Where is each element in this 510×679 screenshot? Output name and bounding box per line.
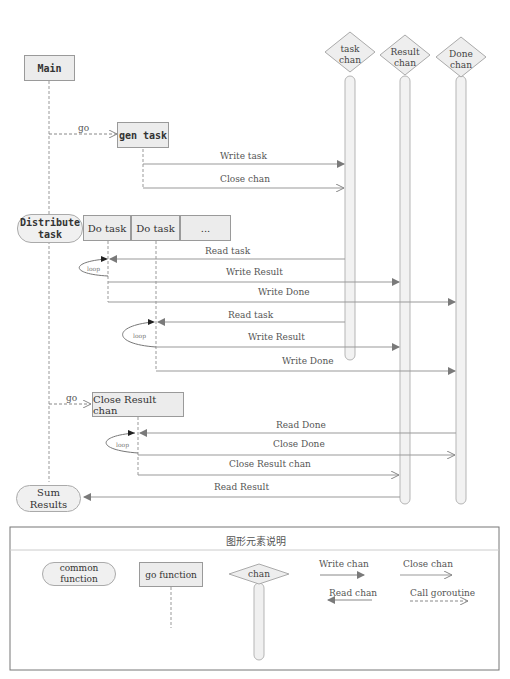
- close-chan-label: Close chan: [220, 175, 270, 184]
- sum-results-pill: Sum Results: [16, 485, 81, 512]
- do-task-more-box: ...: [180, 215, 231, 241]
- close-result-chan-label: Close Result chan: [229, 460, 311, 469]
- close-result-chan-box: Close Result chan: [92, 392, 184, 417]
- go-label-2: go: [66, 394, 77, 403]
- legend-call-goroutine-label: Call goroutine: [410, 589, 475, 598]
- legend-close-chan-label: Close chan: [403, 560, 453, 569]
- result-chan-lifeline: [380, 35, 430, 504]
- done-chan-lifeline: [436, 37, 486, 504]
- task-chan-lifeline: [325, 32, 375, 360]
- legend-common-function: common function: [42, 562, 116, 586]
- do-task-1-box: Do task: [83, 215, 131, 241]
- done-chan-label: Donechan: [441, 49, 481, 72]
- loop-1-label: loop: [87, 265, 100, 272]
- read-done-label: Read Done: [276, 421, 326, 430]
- write-done-1-label: Write Done: [258, 288, 310, 297]
- main-box: Main: [24, 55, 75, 81]
- go-label-1: go: [78, 124, 89, 133]
- read-result-label: Read Result: [214, 483, 269, 492]
- result-chan-label: Resultchan: [385, 47, 425, 70]
- gen-task-box: gen task: [117, 122, 169, 148]
- read-task-2-label: Read task: [228, 311, 273, 320]
- close-done-label: Close Done: [273, 440, 325, 449]
- task-chan-label: taskchan: [330, 44, 370, 67]
- distribute-task-pill: Distribute task: [17, 214, 83, 243]
- legend-write-chan-label: Write chan: [319, 560, 369, 569]
- legend-read-chan-label: Read chan: [329, 589, 377, 598]
- write-task-label: Write task: [220, 152, 267, 161]
- loop-3-label: loop: [116, 441, 129, 448]
- legend-go-function: go function: [139, 562, 203, 587]
- do-task-2-box: Do task: [131, 215, 180, 241]
- legend-chan-label: chan: [239, 569, 279, 580]
- loop-2-label: loop: [133, 332, 146, 339]
- write-result-1-label: Write Result: [226, 268, 283, 277]
- write-result-2-label: Write Result: [248, 333, 305, 342]
- legend-title: 图形元素说明: [226, 533, 286, 548]
- read-task-1-label: Read task: [205, 247, 250, 256]
- write-done-2-label: Write Done: [282, 357, 334, 366]
